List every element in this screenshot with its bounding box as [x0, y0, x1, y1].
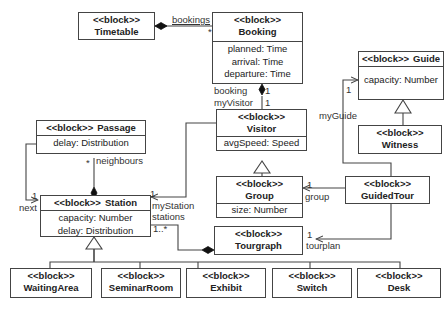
mult-bookings: * [208, 26, 212, 37]
block-desk[interactable]: <<block>> Desk [357, 268, 441, 298]
visitor-mystation-line [151, 123, 216, 197]
block-name: Guide [413, 53, 440, 64]
stereotype: <<block>> [346, 178, 429, 190]
block-name: Group [217, 190, 302, 202]
guidedtour-tourgraph-line [316, 203, 391, 239]
block-name: WaitingArea [11, 282, 91, 294]
stereotype: <<block>> [273, 270, 351, 282]
stereotype: <<block>> [358, 270, 440, 282]
composition-diamond-timetable [155, 23, 167, 30]
block-name: Desk [358, 282, 440, 294]
mult-mystation: 1 [150, 188, 155, 199]
block-name: Tourgraph [215, 240, 302, 252]
role-myguide: myGuide [319, 110, 357, 121]
block-station[interactable]: <<block>>Station capacity: Number delay:… [40, 195, 151, 237]
mult-neighbours: * [86, 157, 90, 168]
block-name: Station [105, 197, 137, 208]
role-myvisitor: myVisitor [214, 97, 253, 108]
mult-next: 1 [32, 190, 37, 201]
block-booking[interactable]: <<block>> Booking planned: Time arrival:… [212, 12, 303, 84]
mult-myguide: 1 [346, 84, 351, 95]
block-name: Visitor [217, 123, 306, 135]
block-seminarroom[interactable]: <<block>> SeminarRoom [101, 268, 181, 298]
block-waitingarea[interactable]: <<block>> WaitingArea [10, 268, 92, 298]
attribute: size: Number [219, 204, 300, 217]
role-mystation: myStation [152, 200, 194, 211]
role-booking: booking [214, 85, 247, 96]
block-guide[interactable]: <<block>>Guide capacity: Number [358, 51, 444, 100]
role-next: next [19, 202, 37, 213]
block-group[interactable]: <<block>> Group size: Number [216, 176, 303, 218]
attribute: departure: Time [215, 68, 300, 81]
stereotype: <<block>> [11, 270, 91, 282]
attribute: capacity: Number [361, 74, 441, 87]
stereotype: <<block>> [217, 111, 306, 123]
block-name: SeminarRoom [102, 282, 180, 294]
stereotype: <<block>> [213, 14, 302, 26]
attribute: planned: Time [215, 43, 300, 56]
attribute: capacity: Number [43, 212, 148, 225]
stereotype: <<block>> [187, 270, 265, 282]
block-exhibit[interactable]: <<block>> Exhibit [186, 268, 266, 298]
block-name: Timetable [79, 26, 154, 38]
attribute: arrival: Time [215, 56, 300, 69]
role-group: group [305, 191, 329, 202]
block-witness[interactable]: <<block>> Witness [358, 125, 442, 154]
block-diagram: <<block>> Timetable <<block>> Booking pl… [0, 0, 448, 311]
role-tourplan: tourplan [306, 240, 340, 251]
block-switch[interactable]: <<block>> Switch [272, 268, 352, 298]
block-passage[interactable]: <<block>>Passage delay: Distribution [36, 120, 146, 154]
block-name: Passage [97, 122, 136, 133]
stereotype: <<block>> [217, 178, 302, 190]
stereotype: <<block>> [46, 122, 93, 133]
block-name: Witness [359, 139, 441, 151]
block-guidedtour[interactable]: <<block>> GuidedTour [345, 176, 430, 204]
mult-booking: 1 [265, 85, 270, 96]
block-timetable[interactable]: <<block>> Timetable [78, 12, 155, 40]
stereotype: <<block>> [359, 127, 441, 139]
block-tourgraph[interactable]: <<block>> Tourgraph [214, 226, 303, 255]
mult-group: 1 [307, 179, 312, 190]
block-visitor[interactable]: <<block>> Visitor avgSpeed: Speed [216, 109, 307, 151]
mult-tourplan: 1 [307, 229, 312, 240]
role-stations: stations [152, 211, 185, 222]
attribute: avgSpeed: Speed [219, 137, 304, 150]
composition-diamond-tourgraph [202, 247, 214, 254]
block-name: Exhibit [187, 282, 265, 294]
mult-myvisitor: 1 [265, 97, 270, 108]
stereotype: <<block>> [215, 228, 302, 240]
mult-stations: 1..* [153, 223, 167, 234]
stereotype: <<block>> [362, 53, 409, 64]
block-name: Switch [273, 282, 351, 294]
attribute: delay: Distribution [43, 225, 148, 238]
stereotype: <<block>> [102, 270, 180, 282]
role-neighbours: neighbours [96, 155, 143, 166]
stereotype: <<block>> [79, 14, 154, 26]
stereotype: <<block>> [54, 197, 101, 208]
attribute: delay: Distribution [39, 137, 143, 150]
generalization-triangle-visitor [254, 161, 270, 173]
block-name: GuidedTour [346, 190, 429, 202]
role-bookings: bookings [172, 14, 210, 25]
block-name: Booking [213, 26, 302, 38]
generalization-triangle-guide [395, 100, 411, 113]
